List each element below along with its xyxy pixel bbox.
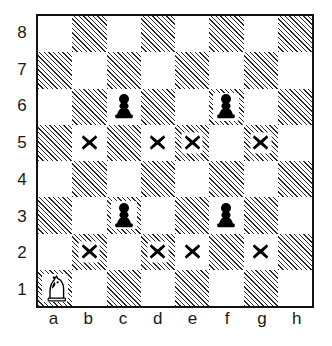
board-square-c4[interactable] xyxy=(107,161,141,197)
glyph-backdrop xyxy=(111,93,137,121)
board-square-e7[interactable] xyxy=(175,52,209,88)
board-square-h3[interactable] xyxy=(278,197,312,233)
board-square-a8[interactable] xyxy=(38,16,72,52)
board-square-d3[interactable] xyxy=(141,197,175,233)
rank-label-3: 3 xyxy=(10,198,34,235)
board-square-f8[interactable] xyxy=(209,16,243,52)
board-square-g3[interactable] xyxy=(244,197,278,233)
board-square-g6[interactable] xyxy=(244,89,278,125)
rank-label-8: 8 xyxy=(10,14,34,51)
board-square-a1[interactable] xyxy=(38,270,72,306)
file-label-row: abcdefgh xyxy=(36,308,314,334)
board-square-e6[interactable] xyxy=(175,89,209,125)
board-square-e1[interactable] xyxy=(175,270,209,306)
file-label-b: b xyxy=(71,308,106,334)
board-square-b3[interactable] xyxy=(72,197,106,233)
board-square-d1[interactable] xyxy=(141,270,175,306)
board-square-c2[interactable] xyxy=(107,234,141,270)
board-square-e5[interactable] xyxy=(175,125,209,161)
board-square-b6[interactable] xyxy=(72,89,106,125)
board-square-c6[interactable] xyxy=(107,89,141,125)
board-square-h4[interactable] xyxy=(278,161,312,197)
board-square-f7[interactable] xyxy=(209,52,243,88)
board-square-d7[interactable] xyxy=(141,52,175,88)
rank-label-column: 87654321 xyxy=(10,14,34,308)
rank-label-2: 2 xyxy=(10,235,34,272)
file-label-g: g xyxy=(245,308,280,334)
glyph-backdrop xyxy=(111,201,137,229)
board-square-a6[interactable] xyxy=(38,89,72,125)
board-square-b5[interactable] xyxy=(72,125,106,161)
board-square-c7[interactable] xyxy=(107,52,141,88)
rank-label-5: 5 xyxy=(10,124,34,161)
rank-label-1: 1 xyxy=(10,271,34,308)
board-square-b4[interactable] xyxy=(72,161,106,197)
glyph-backdrop xyxy=(250,132,271,153)
board-square-b8[interactable] xyxy=(72,16,106,52)
rank-label-7: 7 xyxy=(10,51,34,88)
board-grid xyxy=(38,16,312,306)
file-label-d: d xyxy=(140,308,175,334)
board-square-g1[interactable] xyxy=(244,270,278,306)
board-square-e8[interactable] xyxy=(175,16,209,52)
rank-label-6: 6 xyxy=(10,88,34,125)
board-square-g2[interactable] xyxy=(244,234,278,270)
board-square-c3[interactable] xyxy=(107,197,141,233)
file-label-e: e xyxy=(175,308,210,334)
board-square-f6[interactable] xyxy=(209,89,243,125)
board-square-b2[interactable] xyxy=(72,234,106,270)
glyph-backdrop xyxy=(79,132,100,153)
board-square-d4[interactable] xyxy=(141,161,175,197)
board-square-f1[interactable] xyxy=(209,270,243,306)
board-square-f3[interactable] xyxy=(209,197,243,233)
file-label-h: h xyxy=(279,308,314,334)
board-square-a2[interactable] xyxy=(38,234,72,270)
glyph-backdrop xyxy=(250,241,271,262)
glyph-backdrop xyxy=(182,241,203,262)
glyph-backdrop xyxy=(147,241,168,262)
board-square-d6[interactable] xyxy=(141,89,175,125)
board-square-d5[interactable] xyxy=(141,125,175,161)
board-square-d8[interactable] xyxy=(141,16,175,52)
board-square-f2[interactable] xyxy=(209,234,243,270)
board-square-g4[interactable] xyxy=(244,161,278,197)
board-square-c8[interactable] xyxy=(107,16,141,52)
board-square-e3[interactable] xyxy=(175,197,209,233)
glyph-backdrop xyxy=(213,201,239,229)
rank-label-4: 4 xyxy=(10,161,34,198)
board-square-a5[interactable] xyxy=(38,125,72,161)
board-square-h5[interactable] xyxy=(278,125,312,161)
board-square-h7[interactable] xyxy=(278,52,312,88)
board-square-e2[interactable] xyxy=(175,234,209,270)
glyph-backdrop xyxy=(147,132,168,153)
board-square-h8[interactable] xyxy=(278,16,312,52)
board-square-f5[interactable] xyxy=(209,125,243,161)
board-square-h1[interactable] xyxy=(278,270,312,306)
file-label-c: c xyxy=(106,308,141,334)
file-label-a: a xyxy=(36,308,71,334)
board-square-b1[interactable] xyxy=(72,270,106,306)
glyph-backdrop xyxy=(182,132,203,153)
board-square-g7[interactable] xyxy=(244,52,278,88)
board-square-h6[interactable] xyxy=(278,89,312,125)
board-square-b7[interactable] xyxy=(72,52,106,88)
board-square-d2[interactable] xyxy=(141,234,175,270)
file-label-f: f xyxy=(210,308,245,334)
board-square-a3[interactable] xyxy=(38,197,72,233)
board-square-c1[interactable] xyxy=(107,270,141,306)
board-square-a7[interactable] xyxy=(38,52,72,88)
board-square-a4[interactable] xyxy=(38,161,72,197)
chess-diagram: 87654321 abcdefgh xyxy=(0,0,332,346)
board-square-f4[interactable] xyxy=(209,161,243,197)
board-square-h2[interactable] xyxy=(278,234,312,270)
board-square-g5[interactable] xyxy=(244,125,278,161)
glyph-backdrop xyxy=(79,241,100,262)
glyph-backdrop xyxy=(213,93,239,121)
chess-board[interactable] xyxy=(36,14,314,308)
board-square-e4[interactable] xyxy=(175,161,209,197)
board-square-c5[interactable] xyxy=(107,125,141,161)
glyph-backdrop xyxy=(42,274,68,302)
board-square-g8[interactable] xyxy=(244,16,278,52)
